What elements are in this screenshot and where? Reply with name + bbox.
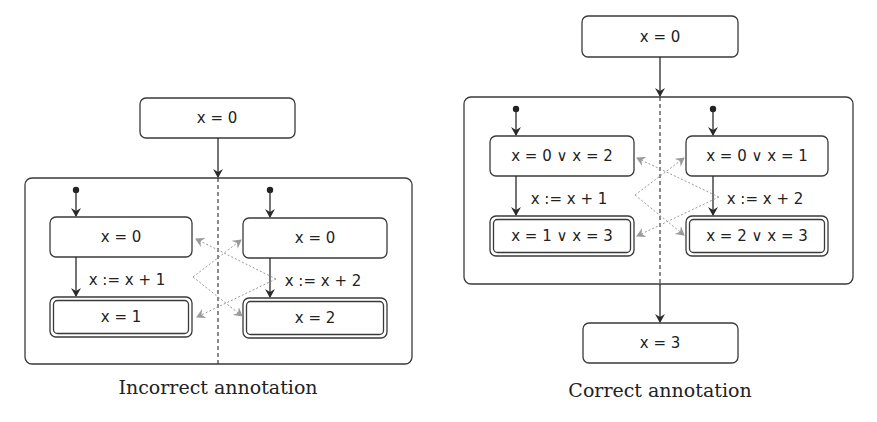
left-statement: x := x + 1 xyxy=(89,271,166,289)
right-post-label: x = 2 ∨ x = 3 xyxy=(706,227,808,245)
correct-caption: Correct annotation xyxy=(568,379,751,401)
left-pre-label: x = 0 ∨ x = 2 xyxy=(511,147,613,165)
correct-annotation-diagram: x = 0 x = 0 ∨ x = 2 x := x + 1 x = 1 ∨ x… xyxy=(464,16,853,401)
left-post-label: x = 1 ∨ x = 3 xyxy=(511,227,613,245)
left-statement: x := x + 1 xyxy=(531,190,608,208)
right-thread: x = 0 ∨ x = 1 x := x + 2 x = 2 ∨ x = 3 xyxy=(686,106,828,256)
left-post-node: x = 1 xyxy=(50,297,192,337)
postcondition-node: x = 3 xyxy=(583,323,738,363)
diagram-canvas: x = 0 x = 0 x := x + 1 x = 1 x = 0 xyxy=(0,0,877,422)
precondition-node: x = 0 xyxy=(582,16,738,57)
incorrect-annotation-diagram: x = 0 x = 0 x := x + 1 x = 1 x = 0 xyxy=(25,98,412,398)
left-post-node: x = 1 ∨ x = 3 xyxy=(490,216,634,256)
right-thread: x = 0 x := x + 2 x = 2 xyxy=(243,187,387,338)
left-thread: x = 0 ∨ x = 2 x := x + 1 x = 1 ∨ x = 3 xyxy=(490,106,634,256)
right-post-label: x = 2 xyxy=(295,309,336,327)
right-statement: x := x + 2 xyxy=(727,190,804,208)
postcondition-label: x = 3 xyxy=(640,334,681,352)
left-post-label: x = 1 xyxy=(101,308,142,326)
right-post-node: x = 2 xyxy=(243,298,387,338)
precondition-label: x = 0 xyxy=(640,28,681,46)
right-pre-label: x = 0 xyxy=(295,229,336,247)
right-statement: x := x + 2 xyxy=(285,272,362,290)
left-pre-label: x = 0 xyxy=(101,228,142,246)
precondition-node: x = 0 xyxy=(140,98,295,138)
precondition-label: x = 0 xyxy=(197,109,238,127)
right-pre-label: x = 0 ∨ x = 1 xyxy=(706,147,808,165)
incorrect-caption: Incorrect annotation xyxy=(118,376,317,398)
right-post-node: x = 2 ∨ x = 3 xyxy=(686,216,828,256)
left-thread: x = 0 x := x + 1 x = 1 xyxy=(50,187,192,337)
